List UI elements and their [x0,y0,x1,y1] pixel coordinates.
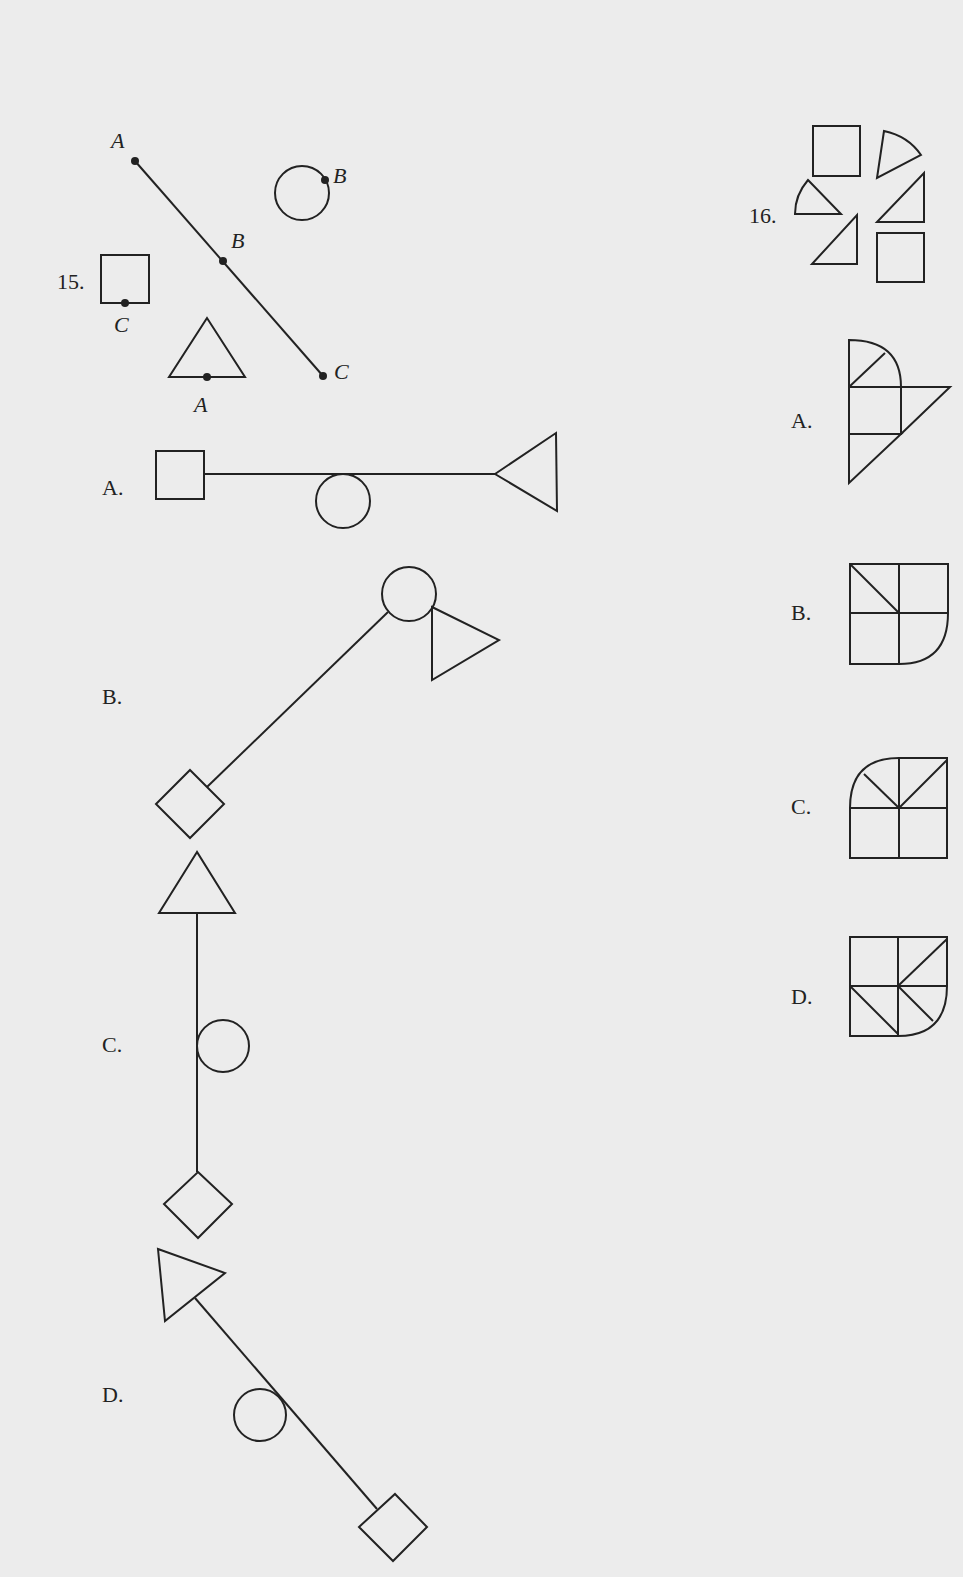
q15-segment-abc [135,161,323,376]
diagonal-lower-left [850,986,898,1034]
q16-prompt-figure [795,126,924,282]
diagonal-upper-right [898,939,947,986]
segment-label-b: B [231,230,244,252]
q15-option-c-label[interactable]: C. [102,1034,122,1056]
triangle-shape [159,852,235,913]
diagonal-divider [850,564,899,613]
square-point-c [121,299,129,307]
circle-shape [382,567,436,621]
point-a [131,157,139,165]
piece-square-2 [877,233,924,282]
point-b [219,257,227,265]
q15-option-c-figure[interactable] [159,852,249,1238]
square-piece [849,387,901,434]
triangle-shape [495,433,557,511]
q15-prompt-figure [101,157,329,381]
q16-option-b-figure[interactable] [850,564,948,664]
diagram-canvas [0,0,963,1577]
piece-triangle-2 [812,215,857,264]
q15-circle [275,166,329,220]
square-shape [156,451,204,499]
diamond-shape [359,1494,427,1561]
q16-option-d-label[interactable]: D. [791,986,812,1008]
triangle-piece-bottom [849,434,901,483]
q16-option-a-label[interactable]: A. [791,410,812,432]
circle-point-b [321,176,329,184]
question-number-16: 16. [749,205,777,227]
circle-shape [234,1389,286,1441]
q15-square [101,255,149,303]
question-number-15: 15. [57,271,85,293]
q16-option-a-figure[interactable] [849,340,950,483]
q15-option-a-label[interactable]: A. [102,477,123,499]
triangle-piece-right [901,387,950,434]
q16-option-c-figure[interactable] [850,758,947,858]
triangle-label-a: A [194,394,207,416]
sector-divider [849,353,885,387]
circle-label-b: B [333,165,346,187]
piece-sector-2 [795,180,841,214]
q16-option-d-figure[interactable] [850,937,947,1036]
connector-line [207,612,388,787]
q16-option-b-label[interactable]: B. [791,602,811,624]
piece-square-1 [813,126,860,176]
connector-line [195,1298,377,1509]
diagonal-divider [899,760,947,808]
sector-divider [898,986,933,1021]
piece-triangle-1 [877,173,924,222]
q15-option-b-label[interactable]: B. [102,686,122,708]
triangle-point-a [203,373,211,381]
piece-sector-1 [877,131,921,178]
q15-option-b-figure[interactable] [156,567,499,838]
segment-label-a: A [111,130,124,152]
circle-shape [316,474,370,528]
q15-option-a-figure[interactable] [156,433,557,528]
sector-divider [864,774,899,808]
q15-option-d-figure[interactable] [158,1249,427,1561]
circle-shape [197,1020,249,1072]
q15-triangle [169,318,245,377]
triangle-shape [432,607,499,680]
triangle-shape [158,1249,225,1321]
q15-option-d-label[interactable]: D. [102,1384,123,1406]
q16-option-c-label[interactable]: C. [791,796,811,818]
square-label-c: C [114,314,129,336]
diamond-shape [164,1172,232,1238]
segment-label-c: C [334,361,349,383]
point-c [319,372,327,380]
